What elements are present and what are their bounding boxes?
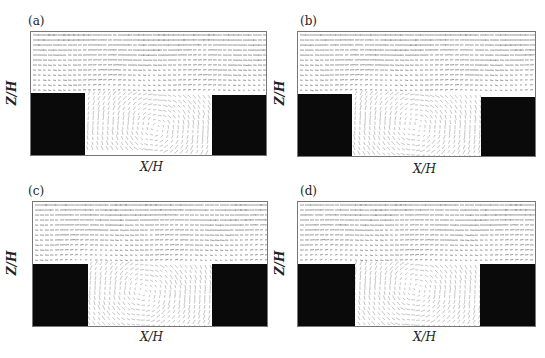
- vector-field-plot: [297, 201, 536, 327]
- building-left: [33, 264, 88, 326]
- x-axis-label: X/H: [413, 330, 436, 344]
- building-left: [298, 264, 355, 326]
- panel-label: (a): [28, 14, 45, 28]
- y-axis-label: Z/H: [5, 81, 19, 105]
- panel-b: (b) Z/H X/H: [270, 0, 545, 180]
- y-axis-label: Z/H: [5, 251, 19, 275]
- building-right: [480, 264, 535, 326]
- panel-c: (c) Z/H X/H: [0, 180, 270, 358]
- vector-field-plot: [30, 31, 267, 156]
- y-axis-label: Z/H: [273, 251, 287, 275]
- building-left: [298, 94, 352, 156]
- panel-a: (a) Z/H X/H: [0, 0, 270, 180]
- y-axis-label: Z/H: [273, 81, 287, 105]
- building-right: [212, 95, 266, 155]
- building-right: [481, 97, 535, 156]
- panel-label: (b): [300, 14, 317, 28]
- panel-label: (d): [300, 184, 317, 198]
- panel-d: (d) Z/H X/H: [270, 180, 545, 358]
- panel-label: (c): [28, 184, 44, 198]
- x-axis-label: X/H: [140, 160, 163, 174]
- x-axis-label: X/H: [140, 330, 163, 344]
- vector-field-plot: [32, 201, 268, 327]
- vector-field-plot: [297, 31, 536, 157]
- building-left: [31, 93, 85, 155]
- building-right: [212, 264, 267, 326]
- x-axis-label: X/H: [413, 162, 436, 176]
